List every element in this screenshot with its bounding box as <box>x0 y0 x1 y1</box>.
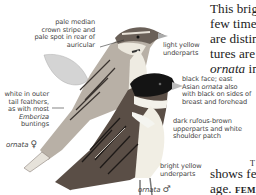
body-line: This brig <box>210 1 256 16</box>
label-line: underparts <box>160 171 202 179</box>
section-heading: FEMA <box>235 185 256 195</box>
rufous-upperparts-label: dark rufous-brown upperparts and white s… <box>173 118 242 141</box>
female-symbol-icon: ♀ <box>30 139 37 149</box>
body-line: few times <box>210 16 256 31</box>
bright-yellow-underparts-label: bright yellow underparts <box>160 163 202 178</box>
body-line: age. FEMA <box>210 181 256 195</box>
species-name: ornata <box>6 141 28 149</box>
crown-stripe-label: pale median crown stripe and pale spot i… <box>20 19 95 49</box>
male-caption: ornata ♂ <box>138 186 170 195</box>
body-line: shows fea <box>210 166 256 181</box>
female-caption: ornata ♀ <box>6 141 37 150</box>
body-text: in <box>245 61 256 76</box>
body-text-bottom: shows fea age. FEMA <box>210 166 256 195</box>
species-name: ornata <box>210 61 245 76</box>
body-line: tures are <box>210 46 256 61</box>
light-yellow-underparts-label: light yellow underparts <box>163 42 200 57</box>
body-line: ornata in <box>210 61 256 76</box>
label-line: buntings <box>0 121 49 129</box>
label-line: shoulder patch <box>173 133 242 141</box>
white-tail-feathers-label: white in outer tail feathers, as with mo… <box>0 91 49 129</box>
black-face-label: black face; east Asian ornata also with … <box>182 76 251 106</box>
body-text-top: This brig few times are distin tures are… <box>210 1 256 76</box>
label-line: auricular <box>20 42 95 50</box>
body-text: age. <box>210 181 235 195</box>
leaf-shape <box>44 54 88 85</box>
label-line: breast and forehead <box>182 99 251 107</box>
male-symbol-icon: ♂ <box>162 184 170 194</box>
label-line: underparts <box>163 50 200 58</box>
body-line: are distin <box>210 31 256 46</box>
species-name: ornata <box>138 186 160 194</box>
